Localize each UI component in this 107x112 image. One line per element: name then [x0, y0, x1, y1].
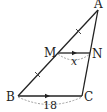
vertex-label-m: M — [44, 46, 56, 60]
segment-label-x: x — [71, 55, 78, 68]
vertex-label-a: A — [93, 0, 103, 11]
vertex-label-c: C — [84, 90, 93, 104]
vertex-label-n: N — [92, 47, 103, 61]
parallel-arrow-icon-bc — [45, 94, 50, 98]
triangle-diagram: A M N B C x 18 — [0, 0, 107, 112]
segment-label-18: 18 — [43, 99, 57, 112]
vertex-label-b: B — [6, 90, 15, 104]
